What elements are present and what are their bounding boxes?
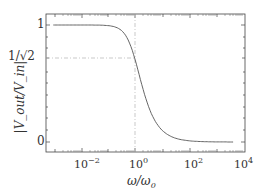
- x-tick-1e0: 100: [129, 156, 148, 171]
- y-tick-0: 0: [37, 134, 45, 148]
- y-axis-label: |V_out/V_in|: [13, 57, 27, 137]
- x-ticks: [55, 14, 217, 152]
- magnitude-curve: [53, 25, 233, 142]
- plot-frame: [46, 14, 245, 152]
- x-minor-ticks: [63, 14, 242, 152]
- x-tick-1e4: 104: [234, 156, 253, 171]
- y-tick-1: 1: [37, 17, 45, 31]
- x-tick-1e2: 102: [184, 156, 203, 171]
- chart-container: 1 1/√2 0 10−2 100 102 104 ω/ω0 |V_out/V_…: [0, 0, 257, 195]
- x-axis-label: ω/ω0: [127, 174, 156, 190]
- y-ticks: [46, 25, 245, 142]
- x-tick-1e-2: 10−2: [74, 156, 100, 171]
